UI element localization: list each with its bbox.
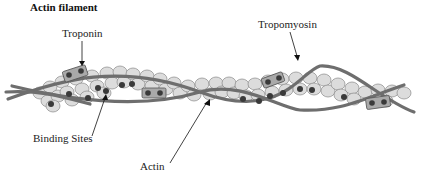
diagram-title: Actin filament: [30, 1, 98, 13]
arrowhead-tropomyosin: [294, 55, 300, 61]
actin-filament-diagram: Actin filament: [0, 0, 424, 186]
label-tropomyosin: Tropomyosin: [258, 18, 317, 30]
label-troponin: Troponin: [62, 27, 103, 39]
label-actin: Actin: [140, 160, 165, 172]
label-binding-sites: Binding Sites: [33, 132, 93, 144]
arrow-tropomyosin: [290, 32, 297, 56]
arrow-actin: [170, 102, 207, 163]
troponin-complex-2: [142, 88, 166, 98]
arrow-binding-sites: [92, 98, 105, 136]
